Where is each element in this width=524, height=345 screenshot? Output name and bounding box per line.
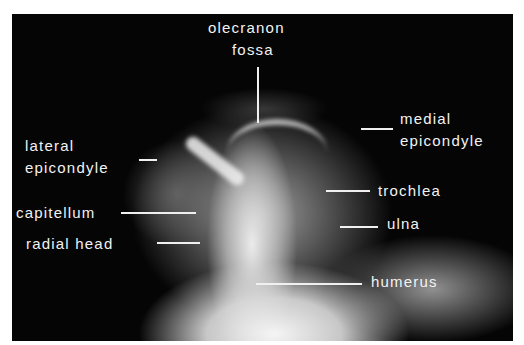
label-ulna: ulna <box>387 213 420 234</box>
label-olecranon: olecranon <box>208 17 285 38</box>
label-trochlea: trochlea <box>378 180 441 201</box>
label-humerus: humerus <box>371 271 438 292</box>
label-fossa: fossa <box>232 39 274 60</box>
label-medial: medial <box>400 108 451 129</box>
leader-line-olecranon-fossa <box>257 67 259 123</box>
leader-line-radial-head <box>157 242 200 244</box>
label-epicondyle-medial: epicondyle <box>400 130 484 151</box>
leader-line-medial-epicondyle <box>361 128 393 130</box>
label-capitellum: capitellum <box>16 202 96 223</box>
label-radial-head: radial head <box>26 233 113 254</box>
leader-line-trochlea <box>326 190 370 192</box>
leader-line-capitellum <box>121 212 196 214</box>
leader-line-ulna <box>340 226 378 228</box>
leader-line-lateral-epicondyle <box>139 159 157 161</box>
leader-line-humerus <box>256 283 362 285</box>
label-epicondyle-lateral: epicondyle <box>25 157 109 178</box>
label-lateral: lateral <box>25 135 74 156</box>
